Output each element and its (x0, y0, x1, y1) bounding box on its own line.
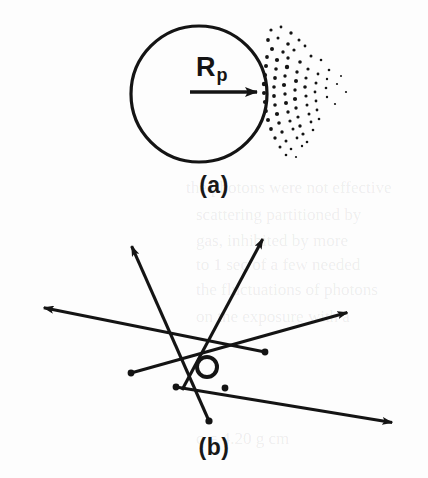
stipple-dot (266, 38, 270, 42)
stipple-dot (293, 88, 296, 91)
stipple-dot (294, 79, 298, 83)
stipple-dot (286, 56, 289, 59)
stipple-dot (294, 106, 297, 109)
stipple-dot (306, 67, 309, 70)
stipple-dot (290, 148, 293, 151)
stipple-dot (318, 118, 321, 121)
stipple-dot (282, 83, 286, 87)
up-right-arrow (182, 239, 263, 390)
stipple-dot (310, 121, 313, 124)
stipple-dot (286, 110, 289, 113)
point-left (128, 370, 135, 377)
stipple-dot (315, 82, 318, 85)
stipple-dot (285, 65, 289, 69)
stipple-dot (310, 55, 313, 58)
point-right (262, 349, 269, 356)
stipple-dot (298, 124, 301, 127)
stipple-dot (292, 48, 295, 51)
stipple-dot (285, 154, 288, 157)
particle-circle (131, 26, 267, 162)
point-lower-left (173, 384, 180, 391)
point-lower-center (222, 385, 229, 392)
stipple-dot (280, 130, 283, 133)
stipple-dot (306, 141, 309, 144)
stipple-dot (320, 59, 323, 62)
stipple-dot (292, 128, 295, 131)
stipple-dot (280, 26, 283, 29)
stipple-dot (301, 145, 303, 147)
figure-root: the photons were not effective scatterin… (0, 0, 428, 478)
panel-b-caption: (b) (0, 434, 428, 461)
point-bottom (205, 417, 212, 424)
stipple-dot (281, 50, 284, 53)
stipple-dot (304, 45, 307, 48)
stipple-dot (304, 76, 307, 79)
stipple-dot (273, 136, 276, 139)
stipple-dot (277, 121, 281, 125)
stipple-dot (265, 55, 269, 59)
stipple-dot (295, 156, 297, 158)
stipple-dot (303, 85, 307, 89)
stipple-dot (314, 91, 317, 94)
stipple-dot (315, 100, 318, 103)
stipple-dot (317, 73, 320, 76)
panel-a-caption: (a) (0, 172, 428, 199)
stipple-dot (266, 118, 270, 122)
stipple-dot (269, 28, 272, 31)
stipple-dot (326, 78, 328, 80)
stipple-dot (284, 101, 288, 105)
stipple-dot (340, 75, 342, 77)
stipple-dot (277, 37, 280, 40)
stipple-dot (295, 70, 298, 73)
panel-a-group (131, 26, 347, 162)
stipple-dot (316, 109, 319, 112)
stipple-dot (298, 39, 301, 42)
stipple-dot (289, 31, 292, 34)
stipple-dot (296, 115, 299, 118)
stipple-dot (272, 85, 276, 89)
stipple-dot (283, 92, 286, 95)
stipple-dot (296, 137, 299, 140)
stipple-dot (275, 112, 279, 116)
stipple-dot (270, 47, 274, 51)
stipple-dot (264, 109, 268, 113)
panel-b-group (44, 239, 392, 425)
stipple-dot (262, 82, 266, 86)
stipple-dot (283, 74, 286, 77)
stipple-dot (306, 104, 309, 107)
stipple-dot (269, 127, 273, 131)
stipple-dot (312, 129, 315, 132)
stipple-dot (304, 94, 307, 97)
radius-subscript: p (217, 65, 228, 85)
stipple-dot (263, 73, 267, 77)
stipple-dot (334, 103, 336, 105)
stipple-dot (274, 67, 278, 71)
stipple-dot (336, 83, 338, 85)
stipple-dot (264, 64, 268, 68)
stipple-dot (308, 113, 311, 116)
scatter-center-circle (197, 357, 217, 377)
stipple-dot (263, 100, 267, 104)
stipple-dot (286, 42, 290, 46)
stipple-dot-cloud (262, 26, 347, 158)
stipple-dot (285, 140, 288, 143)
stipple-dot (273, 103, 277, 107)
stipple-dot (279, 146, 282, 149)
stipple-dot (298, 60, 302, 64)
radius-label: Rp (196, 52, 227, 83)
stipple-dot (275, 58, 279, 62)
stipple-dot (273, 76, 277, 80)
stipple-dot (325, 87, 328, 90)
stipple-dot (345, 91, 347, 93)
stipple-dot (326, 96, 328, 98)
stipple-dot (262, 91, 266, 95)
radius-symbol: R (196, 52, 216, 82)
stipple-dot (328, 69, 331, 72)
stipple-dot (301, 132, 304, 135)
stipple-dot (288, 119, 291, 122)
stipple-dot (272, 94, 276, 98)
stipple-dot (293, 97, 297, 101)
scatter-trajectories (44, 239, 392, 423)
